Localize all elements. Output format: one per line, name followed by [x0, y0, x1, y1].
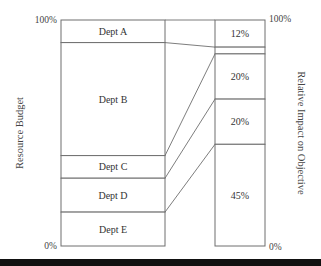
- right-segment-label: 12%: [231, 28, 249, 39]
- connector-line: [165, 54, 215, 156]
- left-segment-label: Dept B: [99, 94, 128, 105]
- left-axis-label: Resource Budget: [14, 97, 25, 169]
- bottom-rule: [0, 259, 321, 266]
- budget-impact-diagram: Dept ADept BDept CDept DDept E 12%20%20%…: [0, 0, 321, 266]
- left-top-tick: 100%: [35, 15, 57, 25]
- left-segment-label: Dept A: [99, 26, 128, 37]
- right-axis-label: Relative Impact on Objective: [296, 71, 307, 195]
- right-segment-label: 20%: [231, 71, 249, 82]
- right-top-tick: 100%: [269, 14, 291, 24]
- left-stacked-bar: Dept ADept BDept CDept DDept E: [61, 20, 165, 246]
- right-bottom-tick: 0%: [269, 242, 282, 252]
- connector-line: [165, 43, 215, 48]
- left-segment-label: Dept C: [99, 161, 128, 172]
- connector-lines: [165, 20, 215, 212]
- left-segment-label: Dept D: [98, 190, 127, 201]
- left-bottom-tick: 0%: [44, 241, 57, 251]
- connector-line: [165, 99, 215, 178]
- left-segment-label: Dept E: [99, 224, 127, 235]
- right-segment-label: 20%: [231, 116, 249, 127]
- right-segment-label: 45%: [231, 190, 249, 201]
- connector-line: [165, 144, 215, 212]
- right-stacked-bar: 12%20%20%45%: [215, 20, 265, 246]
- right-segment-dept-b: [215, 47, 265, 54]
